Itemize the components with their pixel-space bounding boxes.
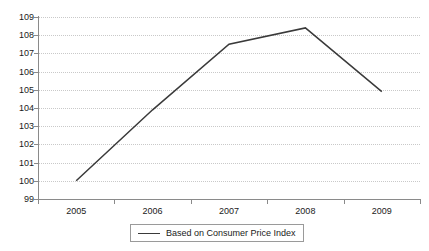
y-axis-tick-mark (34, 53, 38, 54)
series-consumer-price-index (76, 28, 382, 181)
y-axis-tick-mark (34, 181, 38, 182)
y-axis-tick-label: 104 (4, 104, 34, 113)
y-axis-tick-mark (34, 199, 38, 200)
y-axis-tick-label: 100 (4, 177, 34, 186)
y-axis-tick-mark (34, 108, 38, 109)
x-axis-tick-mark (267, 199, 268, 204)
x-axis-tick-mark (344, 199, 345, 204)
y-axis-tick-label: 103 (4, 122, 34, 131)
x-axis-line (38, 199, 421, 200)
y-axis-tick-label: 102 (4, 140, 34, 149)
y-axis-tick-label: 105 (4, 86, 34, 95)
x-axis-tick-mark (114, 199, 115, 204)
x-axis-tick-label: 2008 (267, 206, 343, 216)
y-axis-tick-mark (34, 163, 38, 164)
x-axis-tick-mark (191, 199, 192, 204)
y-axis-tick-mark (34, 17, 38, 18)
legend-line-swatch-icon (138, 233, 160, 234)
legend-entry-label: Based on Consumer Price Index (166, 228, 296, 238)
y-axis-tick-label: 106 (4, 68, 34, 77)
x-axis-tick-label: 2009 (344, 206, 420, 216)
y-axis-tick-label: 109 (4, 13, 34, 22)
y-axis-tick-labels: 99100101102103104105106107108109 (0, 0, 34, 251)
y-axis-tick-label: 99 (4, 195, 34, 204)
y-axis-tick-mark (34, 35, 38, 36)
x-axis-tick-label: 2005 (38, 206, 114, 216)
x-axis-tick-label: 2006 (114, 206, 190, 216)
line-chart: 99100101102103104105106107108109 2005200… (0, 0, 429, 251)
x-axis-tick-mark (420, 199, 421, 204)
chart-legend: Based on Consumer Price Index (130, 224, 304, 242)
y-axis-tick-mark (34, 144, 38, 145)
y-axis-tick-label: 108 (4, 31, 34, 40)
y-axis-tick-label: 107 (4, 49, 34, 58)
x-axis-tick-mark (38, 199, 39, 204)
y-axis-tick-mark (34, 90, 38, 91)
x-axis-tick-label: 2007 (191, 206, 267, 216)
y-axis-tick-mark (34, 72, 38, 73)
y-axis-tick-label: 101 (4, 159, 34, 168)
y-axis-tick-mark (34, 126, 38, 127)
series-line-layer (38, 17, 420, 199)
